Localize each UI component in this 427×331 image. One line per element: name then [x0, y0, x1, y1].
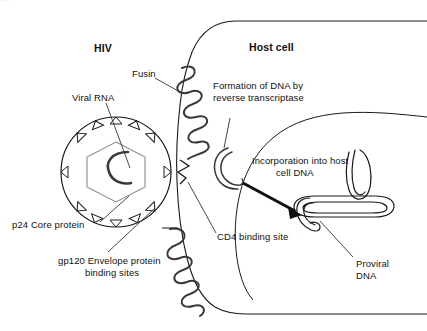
cd4-receptor-coil [167, 229, 204, 316]
leader-gp120 [108, 208, 155, 252]
label-formation-line1: Formation of DNA by [213, 80, 303, 92]
leader-fusin [155, 78, 180, 92]
fusin-coreceptor-coil [177, 67, 208, 159]
newly-formed-viral-dna [215, 148, 244, 189]
label-formation-line2: reverse transcriptase [213, 92, 304, 104]
label-incorporation-line1: Incorporation into host [252, 155, 348, 167]
leader-proviral [320, 221, 353, 257]
leader-cd4 [188, 182, 216, 233]
label-viral-rna: Viral RNA [72, 92, 114, 104]
membrane-fusion-kink [178, 160, 189, 184]
label-proviral-line1: Proviral [356, 258, 389, 270]
gp120-spike-triangles [61, 117, 171, 227]
incorporation-arrow [243, 183, 302, 219]
label-proviral-line2: DNA [356, 270, 376, 282]
label-cd4-binding-site: CD4 binding site [217, 231, 288, 243]
p24-hexagonal-core [87, 142, 145, 202]
hiv-infection-diagram: ··· [0, 0, 427, 331]
label-fusin: Fusin [132, 68, 156, 80]
label-incorporation-line2: cell DNA [276, 167, 314, 179]
label-p24-core-protein: p24 Core protein [12, 219, 84, 231]
label-gp120-line1: gp120 Envelope protein [58, 255, 161, 267]
leader-formation [224, 118, 230, 148]
heading-host-cell: Host cell [249, 42, 294, 54]
heading-hiv: HIV [94, 43, 112, 55]
hiv-virion-particle [61, 117, 171, 227]
label-gp120-line2: binding sites [85, 267, 139, 279]
host-cell-nucleus [235, 112, 427, 300]
viral-rna-strand [108, 152, 131, 184]
leader-p24 [100, 196, 129, 222]
